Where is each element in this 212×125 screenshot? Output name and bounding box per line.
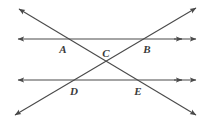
- geometry-figure: A B C D E: [0, 0, 212, 125]
- transversal-line-ne-to-sw: [19, 9, 196, 115]
- point-label-c: C: [102, 48, 109, 59]
- lines-layer: [15, 8, 196, 115]
- point-label-b: B: [143, 44, 150, 55]
- point-label-d: D: [70, 86, 78, 97]
- geometry-canvas: [0, 0, 212, 125]
- secondary-arrowheads-layer: [174, 39, 182, 80]
- point-label-e: E: [134, 86, 141, 97]
- point-label-a: A: [59, 44, 66, 55]
